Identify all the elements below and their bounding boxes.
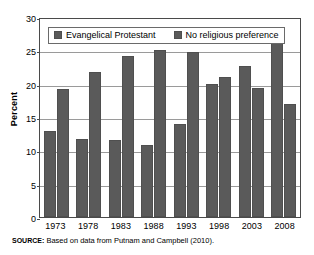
- legend-entry: No religious preference: [174, 30, 279, 40]
- source-text: Based on data from Putnam and Campbell (…: [46, 236, 214, 245]
- bar-group: [40, 19, 73, 217]
- source-note: SOURCE: Based on data from Putnam and Ca…: [12, 236, 214, 246]
- bar: [219, 77, 231, 217]
- x-axis-tick-label: 1988: [137, 221, 170, 231]
- y-axis-tick-label: 25: [26, 48, 36, 57]
- y-axis-tick-label: 30: [26, 15, 36, 24]
- x-axis-tick-label: 1973: [39, 221, 72, 231]
- x-axis-tick-labels: 19731978198319881993199820032008: [39, 221, 301, 231]
- x-axis-tick-label: 2003: [236, 221, 269, 231]
- chart-legend: Evangelical ProtestantNo religious prefe…: [48, 27, 285, 44]
- legend-entry: Evangelical Protestant: [54, 30, 156, 40]
- y-axis-tick-label: 0: [31, 215, 36, 224]
- chart-figure: Percent 051015202530 1973197819831988199…: [0, 0, 314, 255]
- bar: [109, 140, 121, 217]
- bar-group: [105, 19, 138, 217]
- y-axis-tick-label: 15: [26, 115, 36, 124]
- bar: [239, 66, 251, 217]
- bar-group: [235, 19, 268, 217]
- x-axis-tick-label: 2008: [268, 221, 301, 231]
- bar: [76, 139, 88, 217]
- bar: [89, 72, 101, 217]
- bar-group: [268, 19, 301, 217]
- x-axis-tick-label: 1978: [72, 221, 105, 231]
- bar: [154, 50, 166, 217]
- legend-swatch-icon: [54, 31, 62, 39]
- bar: [271, 42, 283, 217]
- legend-label: No religious preference: [186, 30, 279, 40]
- legend-swatch-icon: [174, 31, 182, 39]
- y-axis-tick-label: 10: [26, 148, 36, 157]
- bar: [206, 84, 218, 217]
- bar: [141, 145, 153, 217]
- bar-group: [73, 19, 106, 217]
- y-axis-tick-label: 20: [26, 82, 36, 91]
- bar-group: [203, 19, 236, 217]
- bar-group: [138, 19, 171, 217]
- y-axis-tick-label: 5: [31, 182, 36, 191]
- bar-group: [170, 19, 203, 217]
- y-axis-title: Percent: [9, 74, 19, 144]
- x-axis-tick-label: 1983: [105, 221, 138, 231]
- legend-label: Evangelical Protestant: [66, 30, 156, 40]
- bar: [187, 52, 199, 217]
- x-axis-tick-label: 1998: [203, 221, 236, 231]
- bar: [57, 89, 69, 217]
- plot-area: 051015202530: [39, 18, 301, 218]
- bar-series-container: [40, 19, 300, 217]
- y-axis-tick-mark: [37, 219, 40, 220]
- bar: [174, 124, 186, 217]
- x-axis-tick-label: 1993: [170, 221, 203, 231]
- bar: [44, 131, 56, 217]
- bar: [122, 56, 134, 217]
- bar: [252, 88, 264, 217]
- bar: [284, 104, 296, 217]
- source-kicker: SOURCE:: [12, 237, 44, 244]
